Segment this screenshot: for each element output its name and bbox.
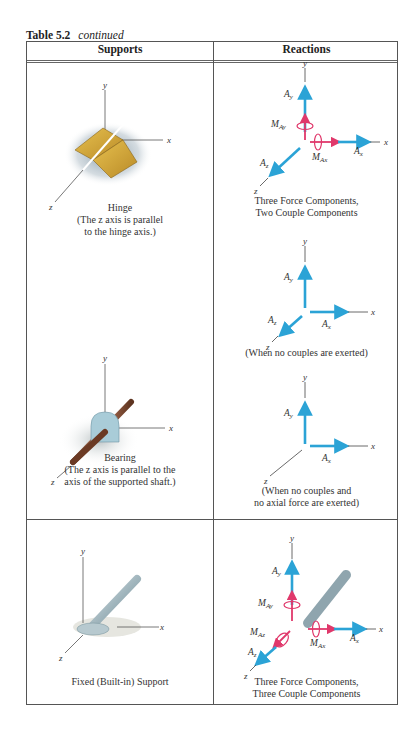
no-couples-caption: (When no couples are exerted) [214,347,399,359]
svg-text:Ay: Ay [283,89,294,101]
bearing-note-line-2: axis of the supported shaft.) [27,476,213,488]
svg-text:Az: Az [259,158,269,170]
caption-line-1: (When no couples and [214,485,399,497]
svg-text:MAx: MAx [309,638,326,650]
fixed-x-axis-label: x [159,622,164,632]
bearing-reactions-caption: (When no couples and no axial force are … [214,485,399,509]
hinge-reactions-diagram-no-couples: yxz Ay Ax Az [214,226,399,346]
svg-text:x: x [370,441,375,451]
svg-text:x: x [370,307,375,317]
supports-reactions-table: Supports Reactions [26,41,398,705]
svg-text:Ax: Ax [353,146,364,158]
hinge-reactions-caption: Three Force Components, Two Couple Compo… [214,195,399,219]
svg-text:MAz: MAz [249,627,265,639]
bearing-note-line-1: (The z axis is parallel to the [27,464,213,476]
svg-text:Ax: Ax [321,319,332,331]
svg-text:MAx: MAx [311,152,328,164]
table-continued: continued [78,29,123,41]
caption-line-1: Three Force Components, [214,195,399,207]
hinge-note-line-2: to the hinge axis.) [27,226,213,238]
bearing-label: Bearing (The z axis is parallel to the a… [27,452,213,488]
caption-line-1: Three Force Components, [214,676,399,688]
svg-text:Az: Az [267,315,277,327]
hinge-label: Hinge (The z axis is parallel to the hin… [27,202,213,238]
svg-text:Ay: Ay [283,408,294,420]
bearing-x-axis-label: x [168,423,173,433]
svg-text:y: y [289,533,294,543]
hinge-note-line-1: (The z axis is parallel [27,214,213,226]
svg-text:y: y [302,58,307,68]
hinge-y-axis-label: y [102,80,107,90]
svg-text:y: y [302,372,307,382]
fixed-y-axis-label: y [80,546,85,556]
svg-text:Ax: Ax [321,453,332,465]
caption-line-2: no axial force are exerted) [214,497,399,509]
bearing-reactions-diagram: yxz Ay Ax [214,362,399,482]
fixed-z-axis-label: z [58,653,63,663]
fixed-reactions-caption: Three Force Components, Three Couple Com… [214,676,399,700]
svg-text:MAy: MAy [270,119,287,131]
svg-text:x: x [378,624,383,634]
hinge-name: Hinge [27,202,213,214]
caption-line-2: Two Couple Components [214,207,399,219]
table-number: Table 5.2 [26,29,70,41]
fixed-reactions-diagram: yxz Ay MAy MAx Ax MAz Az [214,519,399,679]
hinge-x-axis-label: x [166,135,171,145]
fixed-support-label: Fixed (Built-in) Support [27,676,213,688]
svg-text:Az: Az [247,647,257,659]
svg-text:Ay: Ay [283,272,294,284]
bearing-y-axis-label: y [102,353,107,363]
caption-line-2: Three Couple Components [214,688,399,700]
svg-text:Ay: Ay [271,566,282,578]
svg-text:x: x [383,137,388,147]
svg-text:MAy: MAy [257,598,274,610]
svg-text:y: y [302,236,307,246]
svg-text:Ax: Ax [349,633,360,645]
hinge-illustration: y x z y x z [27,42,213,519]
bearing-name: Bearing [27,452,213,464]
